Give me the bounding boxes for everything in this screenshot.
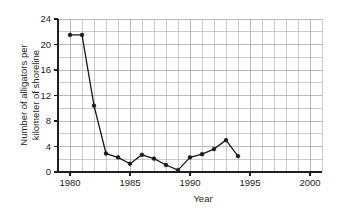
data-point-marker — [104, 152, 108, 156]
data-point-marker — [128, 162, 132, 166]
data-point-marker — [140, 153, 144, 157]
y-axis-title-line2: kilometer of shoreline — [30, 50, 41, 140]
x-tick-label: 1985 — [119, 177, 140, 188]
y-tick-label: 0 — [46, 166, 51, 177]
y-tick-label: 24 — [40, 13, 51, 24]
data-point-marker — [152, 157, 156, 161]
data-point-marker — [224, 138, 228, 142]
x-axis-title: Year — [193, 193, 212, 204]
x-tick-label: 1995 — [239, 177, 260, 188]
line-chart: 19801985199019952000 04812162024 Year Nu… — [0, 0, 344, 214]
x-tick-label: 2000 — [299, 177, 320, 188]
y-tick-label: 8 — [46, 115, 51, 126]
data-point-marker — [92, 104, 96, 108]
data-point-marker — [176, 168, 180, 172]
chart-background — [0, 0, 344, 214]
data-point-marker — [212, 147, 216, 151]
data-point-marker — [116, 155, 120, 159]
data-point-marker — [68, 33, 72, 37]
data-point-marker — [164, 163, 168, 167]
y-tick-label: 20 — [40, 39, 51, 50]
y-tick-label: 4 — [46, 141, 51, 152]
y-axis-title-line1: Number of alligators per — [18, 44, 29, 145]
data-point-marker — [188, 155, 192, 159]
y-tick-label: 16 — [40, 64, 51, 75]
y-tick-label: 12 — [40, 90, 51, 101]
data-point-marker — [80, 33, 84, 37]
data-point-marker — [236, 154, 240, 158]
x-tick-label: 1990 — [179, 177, 200, 188]
data-point-marker — [200, 152, 204, 156]
chart-figure: 19801985199019952000 04812162024 Year Nu… — [0, 0, 344, 214]
x-tick-label: 1980 — [59, 177, 80, 188]
